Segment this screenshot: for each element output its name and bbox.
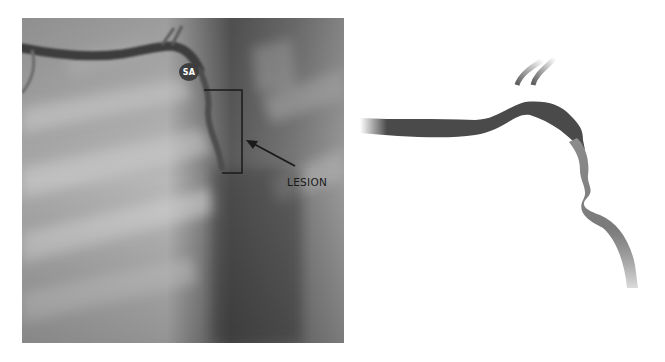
- lesion-label: LESION: [287, 176, 327, 188]
- vessel-schematic: [355, 30, 665, 300]
- subclavian-artery-label: SA: [179, 63, 199, 81]
- vessel-illustration: [355, 30, 665, 300]
